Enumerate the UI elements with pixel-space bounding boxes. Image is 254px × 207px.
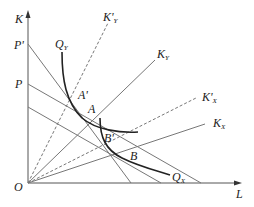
isoquant-qx <box>100 118 170 175</box>
point-label-a-prime: A' <box>77 88 88 102</box>
ray-ky-prime <box>28 23 108 183</box>
l-axis-label: L <box>235 187 243 201</box>
curve-label-qx: QX <box>172 170 186 185</box>
point-label-a: A <box>87 102 96 116</box>
ray-label-ky: KY <box>156 47 170 62</box>
ray-label-ky-prime: K'Y <box>102 10 119 25</box>
k-axis-label: K <box>14 12 24 26</box>
origin-label: O <box>14 180 23 194</box>
ray-label-kx: KX <box>212 116 226 131</box>
point-label-b-prime: B' <box>104 131 114 145</box>
intercept-label-p-prime: P' <box>13 38 24 52</box>
l-axis-arrow-icon <box>234 181 242 186</box>
intercept-label-p: P <box>14 77 23 91</box>
curve-label-qy: QY <box>55 37 69 52</box>
isoquant-diagram: K L O P' P QY QX KY K'Y KX K'X A A' B B' <box>0 0 254 207</box>
point-label-b: B <box>130 149 138 163</box>
ray-label-kx-prime: K'X <box>201 90 218 105</box>
k-axis-arrow-icon <box>26 10 31 18</box>
